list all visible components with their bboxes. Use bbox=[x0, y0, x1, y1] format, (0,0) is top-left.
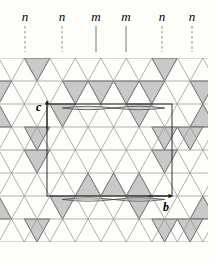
c-axis-label: c bbox=[36, 100, 42, 114]
shared-edge-lens bbox=[114, 106, 165, 109]
shared-edge-lens bbox=[63, 106, 114, 109]
shared-edge-lens bbox=[63, 198, 114, 201]
symmetry-plane-label: n bbox=[159, 9, 166, 24]
crystal-structure-figure: cbnnmmnn bbox=[0, 0, 214, 262]
shared-edge-lens bbox=[114, 198, 165, 201]
symmetry-plane-label: m bbox=[91, 9, 100, 24]
symmetry-plane-label: n bbox=[59, 9, 66, 24]
symmetry-plane-label: n bbox=[189, 9, 196, 24]
b-axis-label: b bbox=[163, 200, 169, 214]
symmetry-plane-label: m bbox=[121, 9, 130, 24]
symmetry-plane-label: n bbox=[22, 9, 29, 24]
crystal-diagram-canvas: cbnnmmnn bbox=[0, 0, 214, 262]
